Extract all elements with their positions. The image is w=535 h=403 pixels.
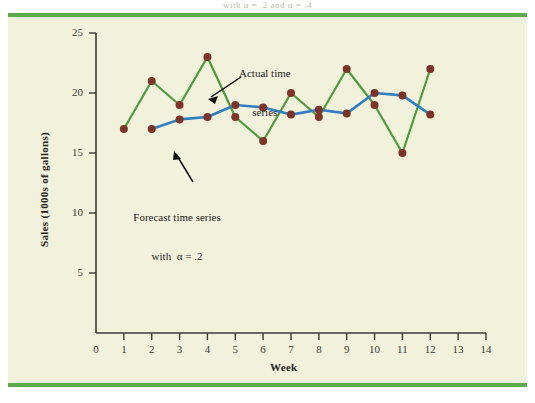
y-tick-label-20: 20 [53, 86, 83, 98]
data-point-marker [398, 91, 406, 99]
data-point-marker [176, 115, 184, 123]
data-point-marker [203, 53, 211, 61]
data-point-marker [426, 111, 434, 119]
data-point-marker [371, 101, 379, 109]
bottom-green-rule [8, 383, 527, 387]
x-tick-label-12: 12 [420, 343, 440, 355]
x-tick-label-10: 10 [365, 343, 385, 355]
forecast-annotation: Forecast time series with α = .2 [112, 185, 242, 289]
data-point-marker [148, 125, 156, 133]
y-axis-title: Sales (1000s of gallons) [38, 132, 50, 247]
x-tick-label-0: 0 [86, 343, 106, 355]
x-tick-label-6: 6 [253, 343, 273, 355]
data-point-marker [315, 106, 323, 114]
data-point-marker [343, 65, 351, 73]
actual-annotation-arrow-line [211, 77, 241, 97]
page-header-fragment: with α = .2 and α = .4 [0, 0, 535, 12]
data-point-marker [398, 149, 406, 157]
x-tick-label-5: 5 [225, 343, 245, 355]
forecast-annotation-line2: with α = .2 [112, 250, 242, 263]
x-tick-label-4: 4 [197, 343, 217, 355]
actual-annotation: Actual time series [239, 41, 291, 145]
data-point-marker [203, 113, 211, 121]
forecast-annotation-arrow-head [173, 151, 181, 160]
x-tick-label-8: 8 [309, 343, 329, 355]
annotation-arrows [173, 77, 241, 182]
data-point-marker [315, 113, 323, 121]
actual-annotation-arrow-head [208, 96, 218, 104]
x-axis-title: Week [270, 361, 297, 373]
data-point-marker [176, 101, 184, 109]
chart-panel: 25 20 15 10 5 0 1 2 3 4 5 6 7 8 9 10 11 … [8, 17, 527, 383]
data-point-marker [343, 109, 351, 117]
y-tick-label-25: 25 [53, 26, 83, 38]
x-tick-label-13: 13 [448, 343, 468, 355]
x-tick-label-3: 3 [170, 343, 190, 355]
data-point-marker [371, 89, 379, 97]
x-tick-label-1: 1 [114, 343, 134, 355]
data-point-marker [148, 77, 156, 85]
data-point-marker [426, 65, 434, 73]
x-tick-label-2: 2 [142, 343, 162, 355]
y-tick-label-10: 10 [53, 206, 83, 218]
x-tick-label-11: 11 [392, 343, 412, 355]
chart-page: with α = .2 and α = .4 [0, 0, 535, 403]
data-point-marker [120, 125, 128, 133]
forecast-annotation-line1: Forecast time series [112, 211, 242, 224]
y-tick-label-5: 5 [53, 266, 83, 278]
x-tick-label-9: 9 [337, 343, 357, 355]
y-tick-label-15: 15 [53, 146, 83, 158]
x-tick-label-14: 14 [476, 343, 496, 355]
actual-annotation-line1: Actual time [239, 67, 291, 80]
plot-area: 25 20 15 10 5 0 1 2 3 4 5 6 7 8 9 10 11 … [8, 17, 527, 383]
actual-annotation-line2: series [239, 106, 291, 119]
x-tick-label-7: 7 [281, 343, 301, 355]
